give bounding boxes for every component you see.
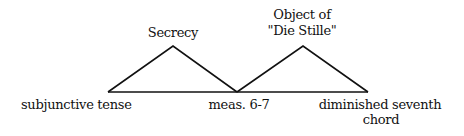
base-label-subjunctive-tense: subjunctive tense — [21, 97, 132, 112]
semantic-triangle-diagram: Secrecy Object of "Die Stille" subjuncti… — [0, 0, 464, 136]
apex-label-object-line1: Object of — [273, 7, 330, 22]
base-label-measures: meas. 6-7 — [209, 97, 270, 112]
triangle-secrecy — [108, 46, 237, 92]
base-label-diminished-seventh-line2: chord — [363, 112, 400, 127]
triangle-object-of-die-stille — [237, 46, 368, 92]
base-label-diminished-seventh-line1: diminished seventh — [319, 97, 442, 112]
apex-label-object-line2: "Die Stille" — [267, 23, 336, 38]
apex-label-secrecy: Secrecy — [148, 25, 198, 40]
